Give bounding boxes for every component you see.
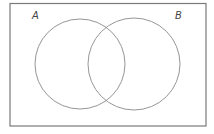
set-a-label: A [32, 10, 39, 21]
universal-set-frame [10, 4, 206, 127]
set-b-circle [88, 18, 180, 110]
set-b-label: B [175, 10, 182, 21]
set-a-circle [35, 19, 125, 109]
